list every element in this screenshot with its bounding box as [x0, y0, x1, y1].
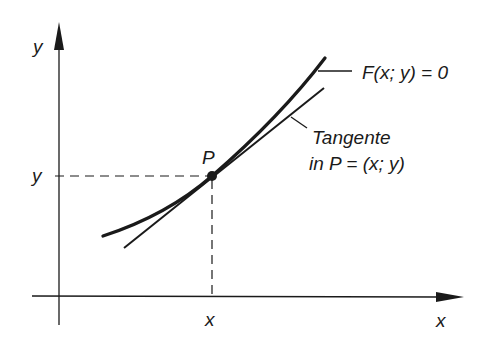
x-axis-label: x: [435, 310, 447, 331]
curve-equation-label: F(x; y) = 0: [362, 62, 448, 83]
x-coordinate-label: x: [204, 309, 216, 330]
tangent-label-line1: Tangente: [312, 127, 391, 148]
y-coordinate-label: y: [30, 165, 43, 186]
point-p-marker: [207, 171, 217, 181]
y-axis-arrow-icon: [54, 22, 64, 50]
tangent-diagram: y x y x P F(x; y) = 0 Tangente in P = (x…: [0, 0, 486, 346]
x-axis: [32, 292, 464, 302]
tangent-label-line2: in P = (x; y): [309, 153, 405, 174]
tangent-label-leader: [291, 117, 307, 128]
x-axis-arrow-icon: [436, 292, 464, 302]
y-axis: [54, 22, 64, 325]
y-axis-label: y: [31, 36, 44, 57]
tangent-line: [124, 88, 324, 248]
point-p-label: P: [202, 147, 215, 168]
